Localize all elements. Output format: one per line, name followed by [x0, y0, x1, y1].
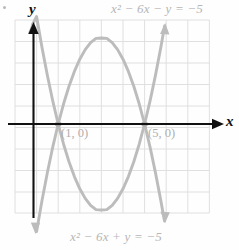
graph-figure: y x x² − 6x − y = −5 x² − 6x + y = −5 (1…: [0, 0, 239, 250]
intersection-label-1-0: (1, 0): [61, 126, 88, 141]
intersection-label-5-0: (5, 0): [148, 126, 175, 141]
y-axis-label: y: [29, 1, 36, 18]
equation-label-top: x² − 6x − y = −5: [111, 1, 203, 17]
y-axis: [28, 22, 38, 218]
x-axis-label: x: [226, 113, 234, 130]
coordinate-plane: [0, 0, 239, 250]
curve-downward-parabola: [37, 38, 165, 232]
equation-label-bottom: x² − 6x + y = −5: [70, 229, 162, 245]
